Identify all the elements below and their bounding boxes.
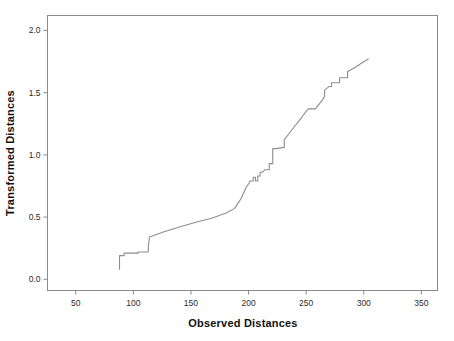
y-tick-label-1.0: 1.0 xyxy=(29,150,41,160)
x-tick-label-150: 150 xyxy=(184,298,198,308)
x-tick-label-300: 300 xyxy=(357,298,371,308)
chart-background xyxy=(0,0,454,341)
y-tick-label-0.0: 0.0 xyxy=(29,274,41,284)
chart-container: 50100150200250300350 0.00.51.01.52.0 Obs… xyxy=(0,0,454,341)
x-tick-label-200: 200 xyxy=(241,298,255,308)
x-axis-title: Observed Distances xyxy=(188,317,297,329)
y-tick-label-2.0: 2.0 xyxy=(29,25,41,35)
scatter-plot-svg: 50100150200250300350 0.00.51.01.52.0 Obs… xyxy=(0,0,454,341)
x-tick-label-350: 350 xyxy=(414,298,428,308)
y-tick-label-1.5: 1.5 xyxy=(29,88,41,98)
x-tick-label-100: 100 xyxy=(126,298,140,308)
x-tick-label-50: 50 xyxy=(71,298,81,308)
y-tick-label-0.5: 0.5 xyxy=(29,212,41,222)
x-tick-label-250: 250 xyxy=(299,298,313,308)
y-axis-title: Transformed Distances xyxy=(4,90,16,216)
